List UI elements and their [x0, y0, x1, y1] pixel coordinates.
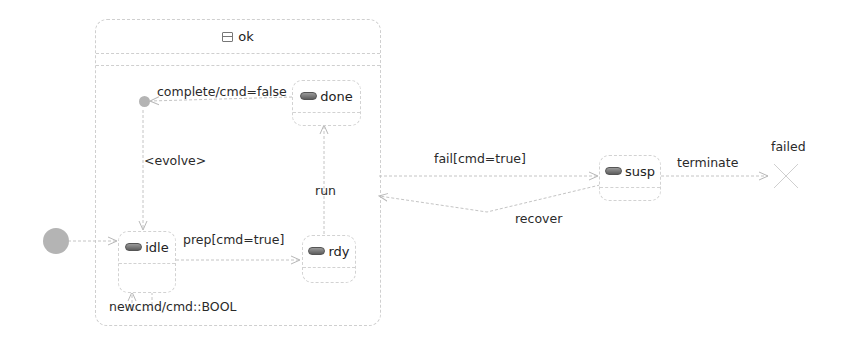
terminate-x-icon[interactable]	[772, 162, 800, 190]
outer-initial-state[interactable]	[43, 228, 69, 254]
transition-label-recover: recover	[515, 212, 562, 226]
transition-label-evolve: <evolve>	[144, 154, 206, 168]
state-name: done	[320, 89, 352, 104]
state-diagram-canvas: ok	[0, 0, 844, 344]
state-divider	[600, 187, 660, 188]
transition-label-terminate: terminate	[677, 156, 738, 170]
state-name: rdy	[328, 244, 349, 259]
transition-label-complete: complete/cmd=false	[157, 85, 287, 99]
transition-label-prep: prep[cmd=true]	[183, 233, 284, 247]
simple-state-icon	[605, 167, 622, 175]
state-rdy[interactable]: rdy	[302, 235, 356, 283]
state-divider	[303, 267, 355, 268]
simple-state-icon	[300, 92, 317, 100]
transition-label-fail: fail[cmd=true]	[434, 152, 526, 166]
final-state-label: failed	[771, 140, 806, 154]
transition-label-run: run	[315, 184, 336, 198]
inner-initial-state[interactable]	[139, 96, 150, 107]
state-done[interactable]: done	[292, 80, 361, 126]
state-divider	[293, 112, 360, 113]
state-idle[interactable]: idle	[118, 231, 176, 293]
state-name: idle	[145, 240, 168, 255]
transition-label-newcmd: newcmd/cmd::BOOL	[109, 300, 236, 314]
simple-state-icon	[125, 243, 142, 251]
state-divider	[119, 263, 175, 264]
simple-state-icon	[308, 247, 325, 255]
state-susp[interactable]: susp	[599, 155, 661, 201]
state-name: susp	[625, 164, 655, 179]
